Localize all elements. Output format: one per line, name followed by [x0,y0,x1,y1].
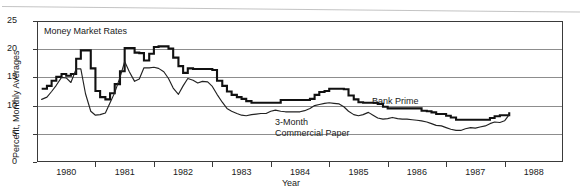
series-path-commercial-paper [42,62,510,131]
series-curves [0,0,582,194]
series-path-bank-prime [42,46,510,119]
chart-figure: Percent, Monthly Averages 0510152025 198… [0,0,582,194]
